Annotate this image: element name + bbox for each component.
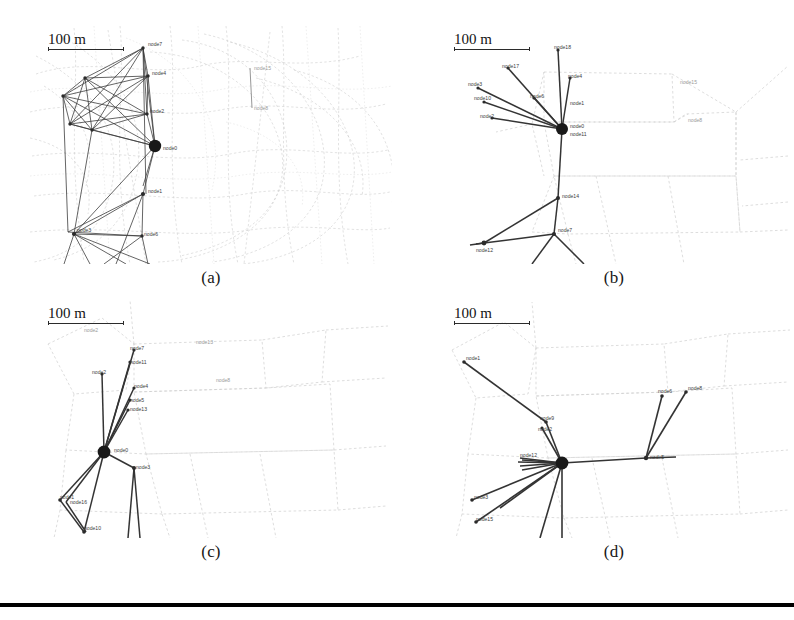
scale-bar-a: 100 m [48, 32, 124, 50]
panel-caption-b: (b) [436, 268, 792, 288]
svg-text:node5: node5 [130, 397, 144, 403]
svg-text:node3: node3 [468, 81, 482, 87]
svg-text:node1: node1 [570, 100, 584, 106]
svg-text:node3: node3 [474, 494, 488, 500]
map-label-group-a: node15 node8 [254, 65, 271, 111]
svg-text:node0: node0 [114, 447, 128, 453]
network-plot-a: node7 node4 node2 node0 node1 node6 node… [30, 26, 392, 264]
scale-bar-line-b [454, 49, 530, 50]
svg-text:node15: node15 [254, 65, 271, 71]
svg-text:node4: node4 [134, 383, 148, 389]
network-nodes-b [476, 48, 571, 245]
page-bottom-rule [0, 603, 794, 607]
map-background-c [48, 300, 388, 538]
scale-bar-line-d [454, 323, 530, 324]
scale-bar-line-c [48, 323, 124, 324]
panel-caption-c: (c) [30, 542, 392, 562]
svg-text:node13: node13 [130, 406, 147, 412]
figure-panel-grid: node7 node4 node2 node0 node1 node6 node… [0, 0, 794, 620]
scale-bar-label-a: 100 m [48, 31, 86, 47]
network-nodes-a [61, 46, 149, 237]
svg-text:node12: node12 [520, 452, 537, 458]
svg-text:node4: node4 [152, 70, 166, 76]
svg-text:node14: node14 [562, 193, 579, 199]
svg-text:node2: node2 [84, 327, 98, 333]
svg-text:node4: node4 [568, 73, 582, 79]
svg-text:node18: node18 [554, 44, 571, 50]
svg-text:node7: node7 [148, 41, 162, 47]
scale-bar-line-a [48, 49, 124, 50]
figure-panel-b: node18 node17 node3 node10 node2 node6 n… [436, 26, 792, 264]
svg-text:node8: node8 [216, 377, 230, 383]
panel-caption-a: (a) [30, 268, 392, 288]
scale-bar-label-d: 100 m [454, 305, 492, 321]
svg-text:node13: node13 [196, 339, 213, 345]
svg-text:node10: node10 [84, 525, 101, 531]
map-node-markers-a [250, 68, 252, 108]
svg-text:node1: node1 [148, 188, 162, 194]
svg-text:node2: node2 [92, 369, 106, 375]
network-plot-b: node18 node17 node3 node10 node2 node6 n… [436, 26, 792, 264]
node-label-group-d: node1 node9 node2 node12 node6 node8 nod… [466, 355, 702, 522]
svg-text:node8: node8 [688, 385, 702, 391]
svg-text:node17: node17 [502, 63, 519, 69]
svg-text:node1: node1 [466, 355, 480, 361]
svg-text:node3: node3 [136, 464, 150, 470]
svg-text:node11: node11 [130, 359, 147, 365]
svg-text:node15: node15 [476, 516, 493, 522]
svg-text:node7: node7 [130, 345, 144, 351]
svg-text:node6: node6 [144, 231, 158, 237]
svg-text:node7: node7 [558, 227, 572, 233]
panel-caption-d: (d) [436, 542, 792, 562]
svg-text:node2: node2 [150, 108, 164, 114]
svg-text:node9: node9 [540, 415, 554, 421]
scale-bar-d: 100 m [454, 306, 530, 324]
figure-panel-d: node1 node9 node2 node12 node6 node8 nod… [436, 300, 792, 538]
svg-text:node12: node12 [476, 247, 493, 253]
hub-node-a [149, 140, 161, 152]
network-nodes-c [58, 348, 136, 533]
scale-bar-b: 100 m [454, 32, 530, 50]
svg-text:node6: node6 [530, 93, 544, 99]
hub-node-c [98, 446, 111, 459]
svg-text:node15: node15 [680, 79, 697, 85]
svg-text:node16: node16 [70, 499, 87, 505]
scale-bar-c: 100 m [48, 306, 124, 324]
svg-text:node3: node3 [77, 227, 91, 233]
svg-text:node8: node8 [688, 117, 702, 123]
svg-text:node8: node8 [254, 105, 268, 111]
network-links-d [464, 362, 686, 538]
figure-panel-a: node7 node4 node2 node0 node1 node6 node… [30, 26, 392, 264]
hub-node-b [556, 123, 568, 135]
svg-text:node11: node11 [570, 131, 587, 137]
hub-node-d [556, 457, 569, 470]
svg-text:node2: node2 [538, 426, 552, 432]
scale-bar-label-c: 100 m [48, 305, 86, 321]
svg-text:node0: node0 [570, 123, 584, 129]
network-plot-c: node7 node11 node2 node4 node5 node13 no… [30, 300, 392, 538]
svg-text:node5: node5 [650, 454, 664, 460]
scale-bar-label-b: 100 m [454, 31, 492, 47]
network-plot-d: node1 node9 node2 node12 node6 node8 nod… [436, 300, 792, 538]
svg-text:node6: node6 [658, 388, 672, 394]
svg-text:node2: node2 [480, 113, 494, 119]
figure-panel-c: node7 node11 node2 node4 node5 node13 no… [30, 300, 392, 538]
node-label-group-b: node18 node17 node3 node10 node2 node6 n… [468, 44, 587, 253]
svg-text:node10: node10 [474, 95, 491, 101]
map-background-d [452, 302, 790, 538]
svg-text:node0: node0 [163, 145, 177, 151]
